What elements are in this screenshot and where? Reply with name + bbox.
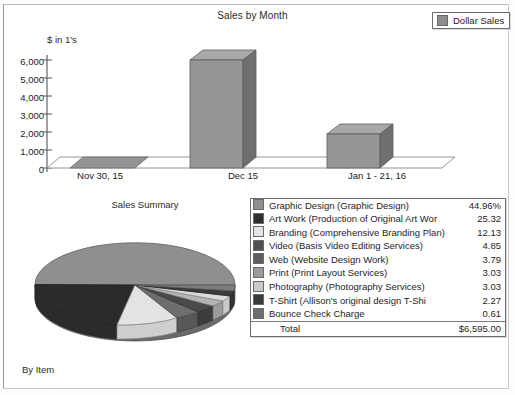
row-value: 3.03 bbox=[456, 267, 505, 281]
row-swatch-icon bbox=[251, 240, 266, 254]
row-value: 3.79 bbox=[456, 253, 505, 267]
table-row: Graphic Design (Graphic Design) 44.96% bbox=[251, 199, 505, 213]
row-value: 25.32 bbox=[456, 213, 505, 227]
row-label: Branding (Comprehensive Branding Plan) bbox=[266, 226, 456, 240]
table-row: Bounce Check Charge 0.61 bbox=[251, 308, 505, 322]
table-row: Branding (Comprehensive Branding Plan) 1… bbox=[251, 226, 505, 240]
total-value: $6,595.00 bbox=[456, 322, 505, 336]
frame-bottom-edge bbox=[3, 388, 509, 389]
row-swatch-icon bbox=[251, 281, 266, 295]
total-spacer bbox=[251, 322, 266, 336]
table-row: T-Shirt (Allison's original design T-Shi… bbox=[251, 294, 505, 308]
row-swatch-icon bbox=[251, 253, 266, 267]
row-label: Web (Website Design Work) bbox=[266, 253, 456, 267]
row-label: Video (Basis Video Editing Services) bbox=[266, 240, 456, 254]
row-label: Bounce Check Charge bbox=[266, 308, 456, 322]
row-swatch-icon bbox=[251, 213, 266, 227]
row-swatch-icon bbox=[251, 199, 266, 213]
row-swatch-icon bbox=[251, 267, 266, 281]
pie-chart-title: Sales Summary bbox=[60, 199, 230, 210]
table-row: Video (Basis Video Editing Services) 4.8… bbox=[251, 240, 505, 254]
row-value: 4.85 bbox=[456, 240, 505, 254]
row-value: 3.03 bbox=[456, 281, 505, 295]
total-label: Total bbox=[266, 322, 456, 336]
table-row: Print (Print Layout Services) 3.03 bbox=[251, 267, 505, 281]
row-label: Photography (Photography Services) bbox=[266, 281, 456, 295]
table-row: Web (Website Design Work) 3.79 bbox=[251, 253, 505, 267]
row-label: T-Shirt (Allison's original design T-Shi bbox=[266, 294, 456, 308]
row-value: 44.96% bbox=[456, 199, 505, 213]
pie-chart bbox=[20, 225, 250, 355]
row-value: 0.61 bbox=[456, 308, 505, 322]
report-page: Sales by Month Dollar Sales $ in 1's 6,0… bbox=[0, 0, 515, 395]
table-total-row: Total $6,595.00 bbox=[251, 322, 505, 336]
table-row: Photography (Photography Services) 3.03 bbox=[251, 281, 505, 295]
row-label: Print (Print Layout Services) bbox=[266, 267, 456, 281]
pie-chart-footer-label: By Item bbox=[22, 364, 54, 375]
row-swatch-icon bbox=[251, 308, 266, 322]
sales-summary-table: Graphic Design (Graphic Design) 44.96% A… bbox=[250, 198, 506, 337]
row-value: 12.13 bbox=[456, 226, 505, 240]
row-value: 2.27 bbox=[456, 294, 505, 308]
row-swatch-icon bbox=[251, 226, 266, 240]
table-row: Art Work (Production of Original Art Wor… bbox=[251, 213, 505, 227]
row-label: Art Work (Production of Original Art Wor bbox=[266, 213, 456, 227]
bar-plot-area bbox=[0, 0, 515, 200]
row-label: Graphic Design (Graphic Design) bbox=[266, 199, 456, 213]
row-swatch-icon bbox=[251, 294, 266, 308]
